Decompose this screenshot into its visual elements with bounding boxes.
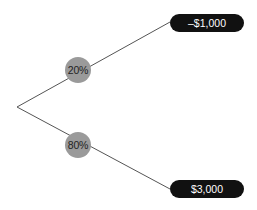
probability-label: 80% [68, 139, 88, 151]
outcome-node-top: –$1,000 [170, 14, 244, 32]
probability-node-bottom: 80% [65, 132, 91, 158]
outcome-node-bottom: $3,000 [170, 180, 244, 198]
edge-root-to-top [17, 22, 170, 107]
probability-label: 20% [68, 64, 88, 76]
outcome-label: –$1,000 [188, 17, 226, 29]
edge-root-to-bottom [17, 107, 170, 189]
outcome-label: $3,000 [191, 183, 223, 195]
probability-node-top: 20% [65, 57, 91, 83]
